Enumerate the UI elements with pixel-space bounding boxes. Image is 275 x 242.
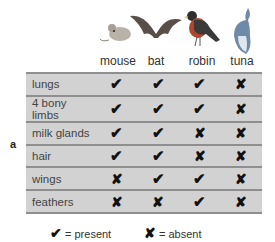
check-icon: ✔ xyxy=(96,96,138,122)
trait-label: 4 bony limbs xyxy=(26,96,96,122)
column-tuna: tuna xyxy=(214,6,270,70)
check-icon: ✔ xyxy=(96,122,138,145)
check-icon: ✔ xyxy=(179,167,221,190)
cross-icon: ✘ xyxy=(221,190,263,213)
check-icon: ✔ xyxy=(179,73,221,96)
trait-label: feathers xyxy=(26,190,96,213)
check-icon: ✔ xyxy=(179,190,221,213)
cross-icon: ✘ xyxy=(179,122,221,145)
animal-header: mouse bat robin tuna xyxy=(0,0,275,72)
check-icon: ✔ xyxy=(138,73,180,96)
cross-icon: ✘ xyxy=(138,190,180,213)
cross-icon: ✘ xyxy=(221,73,263,96)
cross-icon: ✘ xyxy=(221,96,263,122)
table-row: feathers✘✘✔✘ xyxy=(26,190,262,213)
figure-label: a xyxy=(10,138,16,150)
check-icon: ✔ xyxy=(138,96,180,122)
cross-icon: ✘ xyxy=(96,167,138,190)
trait-table: lungs✔✔✔✘4 bony limbs✔✔✔✘milk glands✔✔✘✘… xyxy=(26,72,262,214)
legend-absent-label: = absent xyxy=(159,228,202,240)
trait-label: lungs xyxy=(26,73,96,96)
table-row: wings✘✔✔✘ xyxy=(26,167,262,190)
check-icon: ✔ xyxy=(138,145,180,168)
check-icon: ✔ xyxy=(96,73,138,96)
check-icon: ✔ xyxy=(96,145,138,168)
cross-icon: ✘ xyxy=(221,122,263,145)
legend-present-label: = present xyxy=(65,228,111,240)
cross-icon: ✘ xyxy=(179,145,221,168)
trait-label: wings xyxy=(26,167,96,190)
legend-present: ✔= present xyxy=(50,225,111,241)
cross-icon: ✘ xyxy=(221,167,263,190)
check-icon: ✔ xyxy=(138,122,180,145)
trait-label: hair xyxy=(26,145,96,168)
check-icon: ✔ xyxy=(138,167,180,190)
table-row: milk glands✔✔✘✘ xyxy=(26,122,262,145)
cross-icon: ✘ xyxy=(144,225,156,241)
cross-icon: ✘ xyxy=(96,190,138,213)
tuna-icon xyxy=(222,6,262,58)
legend-absent: ✘= absent xyxy=(144,225,202,241)
check-icon: ✔ xyxy=(50,225,62,241)
table-row: 4 bony limbs✔✔✔✘ xyxy=(26,96,262,122)
table-row: hair✔✔✘✘ xyxy=(26,145,262,168)
column-label-tuna: tuna xyxy=(214,54,270,68)
trait-label: milk glands xyxy=(26,122,96,145)
table-row: lungs✔✔✔✘ xyxy=(26,73,262,96)
cross-icon: ✘ xyxy=(221,145,263,168)
check-icon: ✔ xyxy=(179,96,221,122)
